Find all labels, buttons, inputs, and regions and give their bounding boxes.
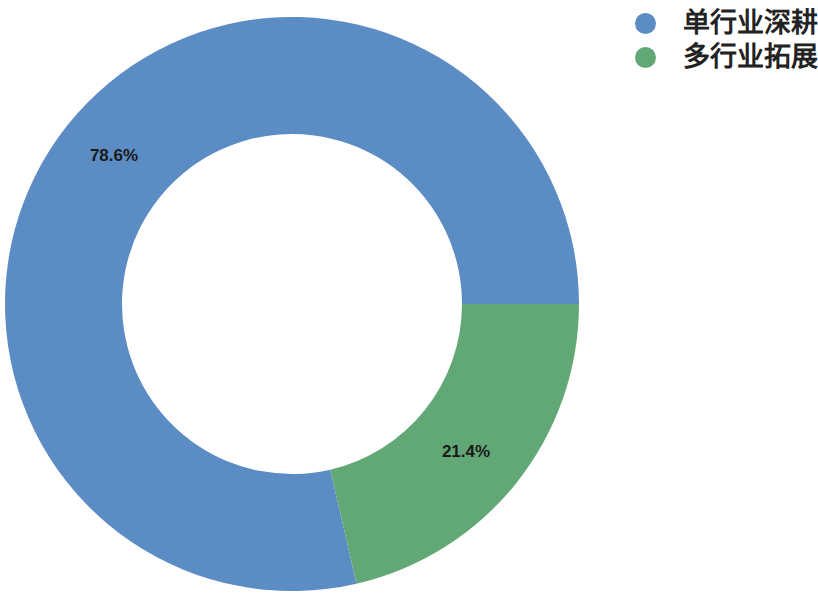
legend-label-single-industry[interactable]: 单行业深耕 <box>683 9 818 36</box>
legend-marker-icon-single-industry <box>635 13 656 34</box>
slice-value-label-multi-industry: 21.4% <box>442 442 490 461</box>
legend-marker-icon-multi-industry <box>635 47 656 68</box>
donut-slices <box>5 17 579 591</box>
slice-value-label-single-industry: 78.6% <box>90 146 138 165</box>
legend-label-multi-industry[interactable]: 多行业拓展 <box>683 43 818 70</box>
